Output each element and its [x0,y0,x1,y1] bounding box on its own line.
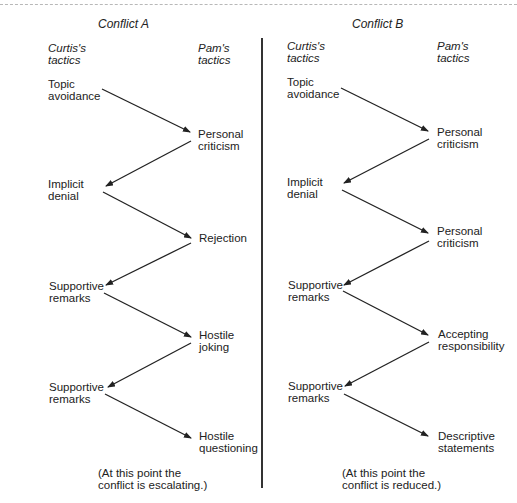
arrow-b-3 [342,190,428,233]
arrow-b-4 [344,241,429,285]
arrow-b-1 [341,88,428,131]
arrow-a-1 [102,89,190,132]
arrow-a-4 [106,243,191,285]
arrow-b-5 [343,291,428,335]
arrow-a-2 [106,141,191,186]
arrow-a-6 [108,343,191,387]
arrow-a-3 [103,192,191,238]
arrow-b-7 [344,394,428,436]
arrow-b-6 [345,342,429,386]
conflict-diagram: Conflict A Curtis's tactics Pam's tactic… [0,0,517,503]
arrow-a-7 [105,394,191,438]
arrows-layer [0,0,517,503]
arrow-b-2 [344,139,429,183]
arrow-a-5 [104,293,191,337]
